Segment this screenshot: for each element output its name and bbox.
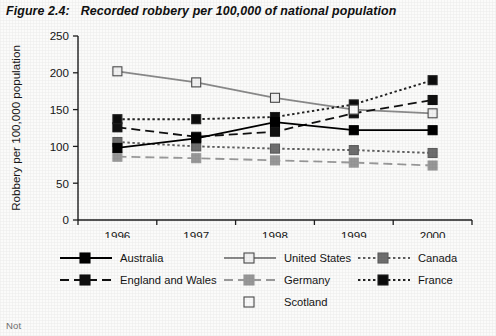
data-point-marker [428,126,437,135]
series-scotland [349,105,358,114]
data-point-marker [192,115,201,124]
legend-marker-icon [356,251,412,265]
data-point-marker [113,143,122,152]
legend-item-scotland[interactable]: Scotland [222,294,328,310]
legend-item-france[interactable]: France [356,272,453,288]
legend-marker-icon [356,273,412,287]
data-point-marker [192,78,201,87]
data-point-marker [428,109,437,118]
data-point-marker [349,105,358,114]
x-tick-label: 1997 [183,229,209,238]
figure-number: Figure 2.4: [6,4,70,18]
data-point-marker [271,127,280,136]
legend-label: France [418,274,453,286]
data-point-marker [428,149,437,158]
y-axis-label: Robbery per 100,000 population [9,45,22,211]
data-point-marker [349,158,358,167]
x-tick-label: 1996 [105,229,131,238]
y-tick-label: 50 [56,177,69,190]
series-germany [113,152,437,170]
data-point-marker [428,76,437,85]
legend-label: England and Wales [120,274,217,286]
chart-legend: AustraliaUnited StatesCanadaEngland and … [0,248,496,310]
legend-label: Scotland [284,296,328,308]
footnote-text: Not [6,320,21,331]
legend-marker-icon [222,251,278,265]
x-tick-label: 1999 [341,229,367,238]
legend-label: Germany [284,274,330,286]
legend-marker-icon [58,273,114,287]
series-united-states [113,67,437,118]
legend-marker-icon [58,251,114,265]
data-point-marker [349,126,358,135]
legend-label: Australia [120,252,164,264]
chart-area: 05010015020025019961997199819992000Robbe… [0,26,496,238]
line-chart: 05010015020025019961997199819992000Robbe… [0,26,496,238]
y-tick-label: 0 [63,213,69,226]
data-point-marker [271,118,280,127]
figure-page: Figure 2.4:Recorded robbery per 100,000 … [0,0,496,336]
legend-item-canada[interactable]: Canada [356,250,457,266]
legend-marker-icon [222,295,278,309]
data-point-marker [349,146,358,155]
legend-marker-icon [222,273,278,287]
data-point-marker [428,96,437,105]
figure-title-text: Recorded robbery per 100,000 of national… [81,4,397,18]
data-point-marker [113,67,122,76]
legend-item-england-and-wales[interactable]: England and Wales [58,272,217,288]
legend-item-united-states[interactable]: United States [222,250,351,266]
figure-title: Figure 2.4:Recorded robbery per 100,000 … [6,4,486,18]
data-point-marker [113,152,122,161]
chart-series-group [113,67,437,170]
y-tick-label: 150 [50,103,69,116]
legend-label: United States [284,252,351,264]
data-point-marker [271,93,280,102]
data-point-marker [428,161,437,170]
chart-tick-labels: 05010015020025019961997199819992000Robbe… [9,29,445,238]
data-point-marker [113,115,122,124]
data-point-marker [271,156,280,165]
x-tick-label: 1998 [262,229,288,238]
series-canada [113,138,437,158]
y-tick-label: 100 [50,140,69,153]
data-point-marker [192,154,201,163]
data-point-marker [192,134,201,143]
data-point-marker [271,144,280,153]
legend-item-germany[interactable]: Germany [222,272,330,288]
legend-label: Canada [418,252,457,264]
y-tick-label: 250 [50,29,69,42]
y-tick-label: 200 [50,66,69,79]
x-tick-label: 2000 [420,229,446,238]
legend-item-australia[interactable]: Australia [58,250,164,266]
